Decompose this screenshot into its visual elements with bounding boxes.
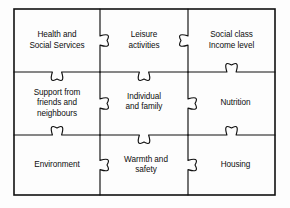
puzzle-cut-line [100,72,108,135]
puzzle-cut-line [180,9,188,72]
puzzle-cut-line [100,135,188,143]
puzzle-frame-border [14,9,275,195]
puzzle-cut-line [100,9,108,72]
puzzle-cut-line [188,64,275,72]
puzzle-cut-line [100,72,188,80]
puzzle-cut-line [14,72,100,80]
jigsaw-puzzle-diagram: Health and Social Services Leisure activ… [0,0,290,208]
puzzle-cut-line [188,72,196,135]
puzzle-cut-line [14,127,100,135]
puzzle-outline-svg [0,0,290,208]
puzzle-interior-lines [14,9,275,195]
puzzle-cut-line [188,135,196,195]
puzzle-cut-line [188,127,275,135]
puzzle-cut-line [100,135,108,195]
